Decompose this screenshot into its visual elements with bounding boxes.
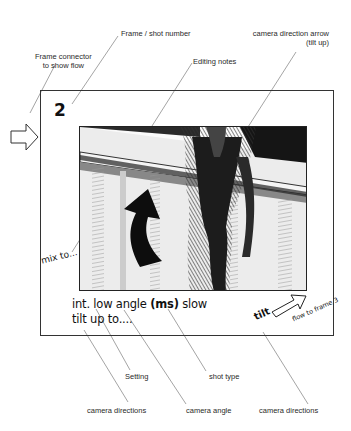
callout-frame-connector: Frame connector to show flow (35, 52, 92, 71)
sketch-image (79, 126, 307, 291)
callout-camera-directions-left: camera directions (87, 406, 146, 415)
callout-shot-type: shot type (209, 372, 239, 381)
shot-description-line2: tilt up to.... (72, 312, 132, 326)
shot-description-shot-type: (ms) (150, 297, 179, 311)
shot-description-setting-angle: int. low angle (72, 297, 150, 311)
shot-description-line1: int. low angle (ms) slow (72, 297, 207, 311)
callout-camera-direction-arrow-line1: camera direction arrow (222, 29, 329, 38)
callout-camera-direction-arrow: camera direction arrow (tilt up) (222, 29, 329, 48)
callout-frame-connector-line1: Frame connector (35, 52, 92, 61)
shot-number: 2 (54, 100, 66, 120)
frame-connector-arrow (11, 124, 38, 150)
callout-camera-directions-right: camera directions (259, 406, 318, 415)
callout-frame-connector-line2: to show flow (35, 61, 92, 70)
callout-camera-angle: camera angle (186, 406, 231, 415)
callout-editing-notes: Editing notes (193, 57, 236, 66)
shot-description-speed: slow (179, 297, 207, 311)
callout-setting: Setting (125, 372, 148, 381)
callout-camera-direction-arrow-line2: (tilt up) (222, 38, 329, 47)
sketch-drawing (80, 127, 307, 291)
callout-frame-shot-number: Frame / shot number (121, 29, 191, 38)
